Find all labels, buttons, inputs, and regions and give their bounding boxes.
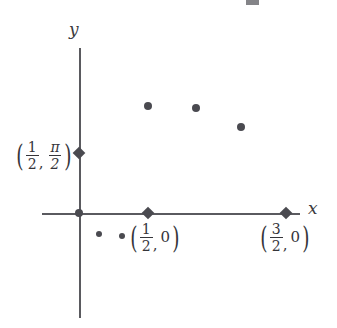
comma-separator: , bbox=[153, 238, 158, 254]
x-axis-tick-marker-three-halves bbox=[280, 207, 293, 220]
fraction-one-half: 1 2 bbox=[26, 140, 39, 172]
y-axis-label: y bbox=[69, 21, 79, 38]
data-point bbox=[119, 233, 125, 239]
fraction-three-halves: 3 2 bbox=[270, 222, 283, 254]
coordinate-label-half-zero: ( 1 2 , 0 ) bbox=[128, 222, 182, 254]
close-paren: ) bbox=[64, 144, 71, 169]
zero-value: 0 bbox=[160, 230, 170, 245]
origin-marker bbox=[75, 209, 83, 217]
zero-value: 0 bbox=[290, 230, 300, 245]
close-paren: ) bbox=[172, 226, 179, 251]
coordinate-label-half-pi-over-two: ( 1 2 , π 2 ) bbox=[14, 140, 73, 172]
comma-separator: , bbox=[39, 156, 44, 172]
fraction-one-half: 1 2 bbox=[140, 222, 153, 254]
data-point bbox=[237, 123, 245, 131]
close-paren: ) bbox=[302, 226, 309, 251]
data-point bbox=[192, 104, 200, 112]
open-paren: ( bbox=[16, 144, 23, 169]
coordinate-label-three-halves-zero: ( 3 2 , 0 ) bbox=[258, 222, 312, 254]
open-paren: ( bbox=[130, 226, 137, 251]
cropped-text-fragment bbox=[246, 0, 259, 5]
open-paren: ( bbox=[260, 226, 267, 251]
x-axis-label: x bbox=[308, 200, 318, 217]
fraction-pi-over-two: π 2 bbox=[48, 140, 61, 172]
y-axis-tick-marker bbox=[73, 147, 86, 160]
data-point bbox=[144, 102, 152, 110]
data-point bbox=[96, 231, 102, 237]
y-axis-line bbox=[79, 48, 81, 318]
comma-separator: , bbox=[283, 238, 288, 254]
math-scatter-plot: x y ( 1 2 , π 2 ) ( 1 2 , 0 ) ( 3 2 , bbox=[0, 0, 337, 328]
x-axis-tick-marker-half bbox=[142, 207, 155, 220]
